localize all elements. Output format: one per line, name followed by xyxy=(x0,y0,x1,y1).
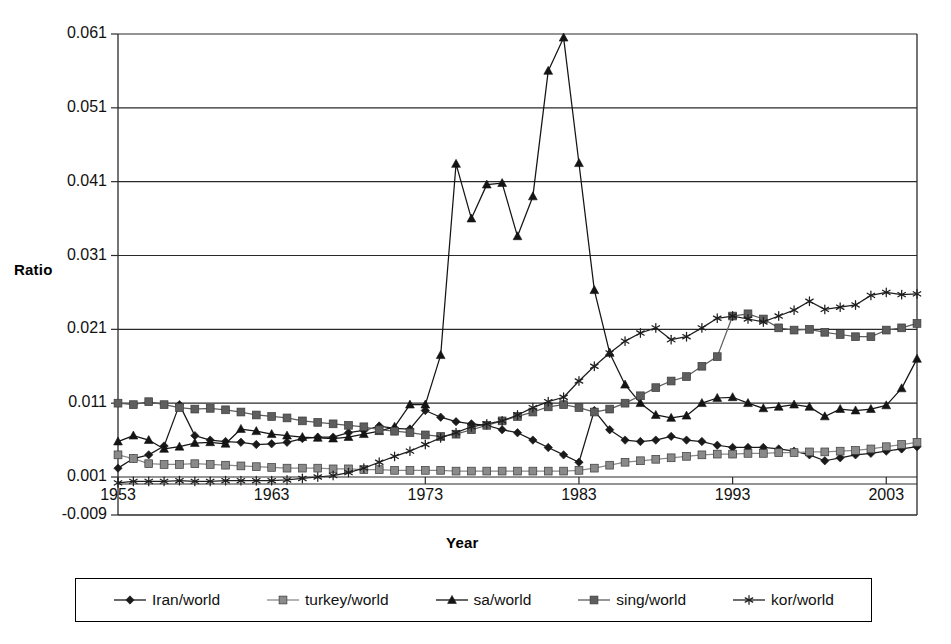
line-chart-plot xyxy=(0,0,951,644)
legend-item-label: Iran/world xyxy=(152,591,220,609)
legend-item[interactable]: sing/world xyxy=(577,591,686,609)
chart-legend: Iran/worldturkey/worldsa/worldsing/world… xyxy=(75,578,872,622)
diamond-icon xyxy=(113,593,147,607)
series-turkey-world xyxy=(114,438,921,475)
square-icon xyxy=(577,593,611,607)
legend-item[interactable]: kor/world xyxy=(732,591,834,609)
chart-page: Ratio Year 0.0610.0510.0410.0310.0210.01… xyxy=(0,0,951,644)
square-icon xyxy=(266,593,300,607)
legend-item[interactable]: Iran/world xyxy=(113,591,220,609)
triangle-icon xyxy=(435,593,469,607)
legend-item-label: turkey/world xyxy=(305,591,389,609)
series-kor-world xyxy=(114,288,920,487)
legend-item-label: kor/world xyxy=(771,591,834,609)
legend-item[interactable]: sa/world xyxy=(435,591,532,609)
legend-item-label: sa/world xyxy=(474,591,532,609)
series-sa-world xyxy=(114,33,922,452)
legend-item[interactable]: turkey/world xyxy=(266,591,389,609)
legend-item-label: sing/world xyxy=(616,591,686,609)
asterisk-icon xyxy=(732,593,766,607)
